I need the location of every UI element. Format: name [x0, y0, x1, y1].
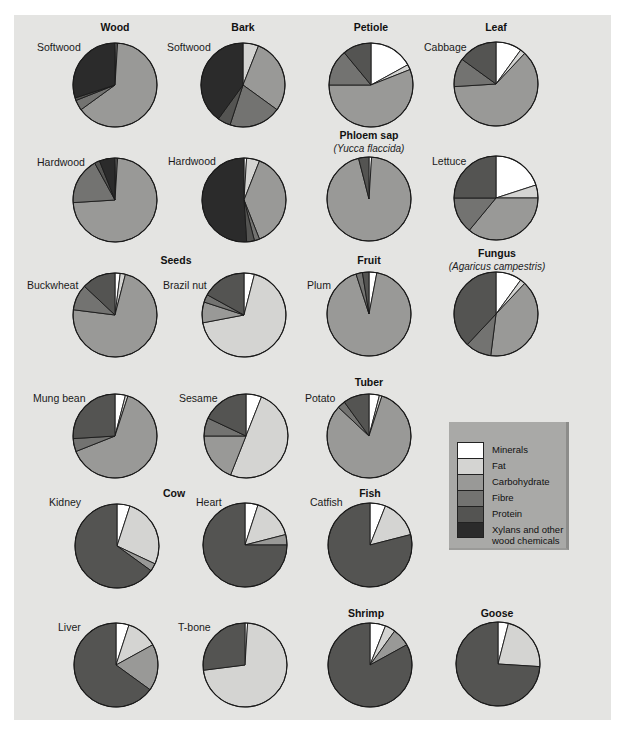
- pie-fruit-plum: [327, 272, 411, 356]
- legend-swatch-xylans: [457, 522, 484, 538]
- legend-label: Protein: [492, 506, 522, 519]
- legend-item-xylans: Xylans and other wood chemicals: [457, 522, 563, 538]
- group-title-bark: Bark: [231, 21, 254, 33]
- legend-item-fat: Fat: [457, 458, 506, 474]
- label-liver: Liver: [58, 621, 81, 633]
- legend-item-minerals: Minerals: [457, 442, 528, 458]
- pie-wood-hardwood: [73, 158, 157, 242]
- group-title-phloem: Phloem sap: [340, 129, 399, 141]
- label-wood-softwood: Softwood: [37, 41, 81, 53]
- label-heart: Heart: [196, 496, 222, 508]
- legend-label: Xylans and other wood chemicals: [492, 522, 563, 546]
- group-subtitle-fungus: (Agaricus campestris): [449, 261, 546, 272]
- pie-phloem-sap-yucca-flaccida: [327, 157, 411, 241]
- group-title-fungus: Fungus: [478, 247, 516, 259]
- pie-leaf-cabbage: [454, 42, 538, 126]
- label-plum: Plum: [307, 279, 331, 291]
- label-mung-bean: Mung bean: [33, 392, 86, 404]
- pie-seeds-mung-bean: [73, 394, 157, 478]
- pie-seeds-sesame: [204, 394, 288, 478]
- group-title-leaf: Leaf: [485, 21, 507, 33]
- label-brazil-nut: Brazil nut: [163, 279, 207, 291]
- group-title-fish: Fish: [359, 487, 381, 499]
- legend-label: Carbohydrate: [492, 474, 550, 487]
- pie-leaf-lettuce: [454, 156, 538, 240]
- legend-item-carbohydrate: Carbohydrate: [457, 474, 550, 490]
- label-lettuce: Lettuce: [432, 155, 466, 167]
- pie-petiole: [329, 43, 413, 127]
- group-title-fruit: Fruit: [357, 254, 380, 266]
- group-title-petiole: Petiole: [354, 21, 388, 33]
- label-potato: Potato: [305, 392, 335, 404]
- label-sesame: Sesame: [179, 392, 218, 404]
- legend-item-fibre: Fibre: [457, 490, 514, 506]
- group-title-seeds: Seeds: [161, 254, 192, 266]
- pie-seeds-buckwheat: [73, 273, 157, 357]
- group-title-wood: Wood: [101, 21, 130, 33]
- pie-tuber-potato: [327, 394, 411, 478]
- pie-slice-xylans: [202, 158, 247, 242]
- pie-cow-kidney: [75, 504, 159, 588]
- legend-item-protein: Protein: [457, 506, 522, 522]
- pie-wood-softwood: [73, 43, 157, 127]
- pie-goose: [456, 622, 540, 706]
- pie-charts: [0, 0, 626, 733]
- label-bark-hardwood: Hardwood: [168, 155, 216, 167]
- group-title-goose: Goose: [481, 607, 514, 619]
- label-cabbage: Cabbage: [424, 41, 467, 53]
- legend-label: Fibre: [492, 490, 514, 503]
- label-kidney: Kidney: [49, 496, 81, 508]
- pie-cow-liver: [74, 623, 158, 707]
- pie-bark-softwood: [201, 43, 285, 127]
- label-tbone: T-bone: [178, 621, 211, 633]
- legend-label: Minerals: [492, 442, 528, 455]
- group-title-tuber: Tuber: [355, 376, 383, 388]
- legend-label-line2: wood chemicals: [492, 535, 560, 546]
- legend-swatch-minerals: [457, 442, 484, 458]
- label-catfish: Catfish: [310, 496, 343, 508]
- pie-fish-catfish: [328, 503, 412, 587]
- group-title-shrimp: Shrimp: [348, 607, 384, 619]
- legend: Minerals Fat Carbohydrate Fibre Protein …: [449, 422, 569, 550]
- label-wood-hardwood: Hardwood: [37, 156, 85, 168]
- pie-bark-hardwood: [202, 158, 286, 242]
- legend-swatch-fibre: [457, 490, 484, 506]
- legend-label-line1: Xylans and other: [492, 524, 563, 535]
- legend-swatch-carbohydrate: [457, 474, 484, 490]
- legend-label: Fat: [492, 458, 506, 471]
- legend-swatch-protein: [457, 506, 484, 522]
- pie-seeds-brazil-nut: [202, 273, 286, 357]
- label-buckwheat: Buckwheat: [27, 279, 78, 291]
- pie-shrimp: [328, 623, 412, 707]
- group-title-cow: Cow: [163, 487, 185, 499]
- label-bark-softwood: Softwood: [167, 41, 211, 53]
- pie-cow-heart: [203, 503, 287, 587]
- legend-swatch-fat: [457, 458, 484, 474]
- pie-fungus-agaricus-campestris: [454, 272, 538, 356]
- pie-cow-t-bone: [203, 623, 287, 707]
- group-subtitle-phloem: (Yucca flaccida): [334, 143, 405, 154]
